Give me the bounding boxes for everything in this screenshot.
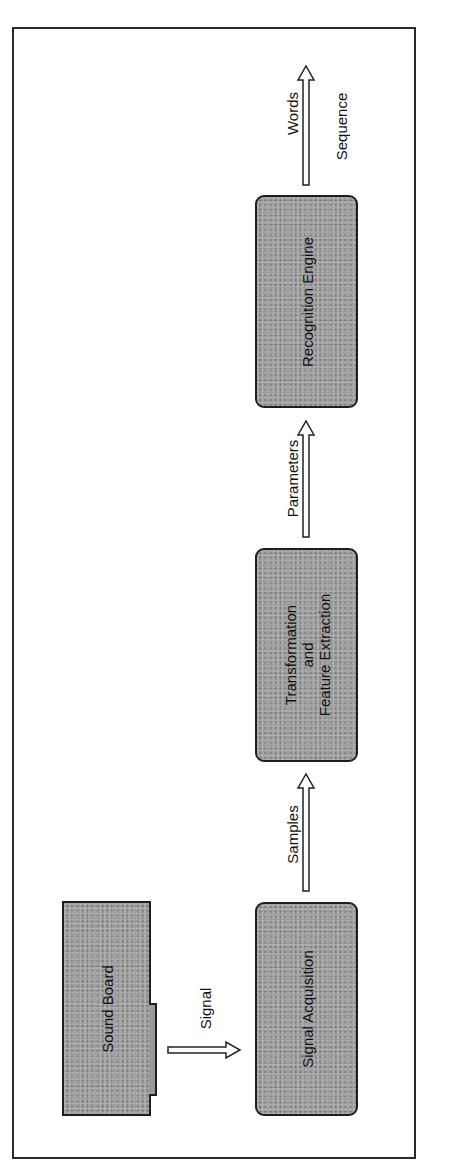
parameters-label: Parameters	[284, 429, 301, 529]
sequence-label: Sequence	[333, 87, 350, 167]
signal-arrow-icon	[168, 1042, 240, 1058]
signal-label: Signal	[197, 974, 214, 1044]
samples-label: Samples	[284, 795, 301, 875]
arrows-layer	[0, 0, 453, 1176]
words-label: Words	[284, 84, 301, 144]
